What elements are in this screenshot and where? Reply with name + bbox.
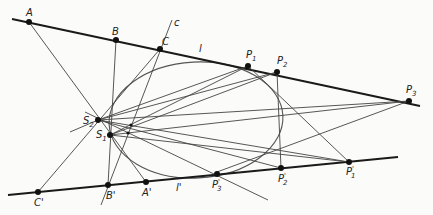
- point-P2-prime: [278, 165, 284, 171]
- label-P1: P1: [246, 49, 257, 63]
- projective-geometry-diagram: A B C c l l' P1 P2 P3 S2 S1 C' B' A' P'3…: [0, 0, 433, 215]
- label-P3: P3: [406, 84, 417, 98]
- point-A-prime: [143, 179, 149, 185]
- label-P2: P2: [277, 55, 288, 69]
- label-S1: S1: [96, 129, 107, 143]
- label-S2: S2: [83, 115, 94, 129]
- line-B-Bprime: [108, 40, 116, 185]
- label-l: l: [199, 43, 202, 54]
- point-S1: [107, 132, 113, 138]
- label-C: C: [162, 36, 169, 47]
- label-P3-prime: P'3: [212, 178, 221, 193]
- label-A-prime: A': [141, 187, 152, 198]
- label-C-prime: C': [34, 197, 44, 208]
- point-A: [26, 19, 32, 25]
- intersection-point-2: [126, 131, 129, 134]
- point-S2: [95, 117, 101, 123]
- line-l-prime: [8, 157, 398, 195]
- label-B-prime: B': [106, 190, 116, 201]
- label-B: B: [112, 26, 119, 37]
- label-c: c: [174, 17, 180, 28]
- line-S2-P3: [98, 101, 409, 120]
- label-P1-prime: P'1: [346, 165, 355, 180]
- point-B: [113, 37, 119, 43]
- line-l: [12, 19, 420, 106]
- label-l-prime: l': [176, 182, 182, 193]
- intersection-point-1: [129, 123, 132, 126]
- point-B-prime: [105, 182, 111, 188]
- line-S1-P1prime: [110, 135, 349, 162]
- point-C-prime: [35, 189, 41, 195]
- point-P3: [406, 98, 412, 104]
- point-P2: [274, 69, 280, 75]
- label-P2-prime: P'2: [278, 172, 288, 187]
- point-P1: [245, 63, 251, 69]
- point-P3-prime: [214, 171, 220, 177]
- line-A-Aprime: [29, 22, 146, 182]
- label-A: A: [25, 7, 33, 18]
